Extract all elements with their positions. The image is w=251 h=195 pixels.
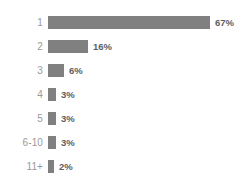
category-label: 4: [0, 88, 43, 101]
category-label: 2: [0, 40, 43, 53]
chart-row: 5 3%: [0, 112, 251, 125]
bar-area: 67%: [48, 16, 251, 29]
category-label: 3: [0, 64, 43, 77]
category-label: 5: [0, 112, 43, 125]
bar-area: 3%: [48, 112, 251, 125]
chart-row: 2 16%: [0, 40, 251, 53]
value-label: 2%: [59, 160, 73, 173]
bar-area: 16%: [48, 40, 251, 53]
bar-area: 6%: [48, 64, 251, 77]
bar-area: 3%: [48, 88, 251, 101]
value-label: 3%: [61, 88, 75, 101]
value-label: 3%: [61, 112, 75, 125]
chart-row: 3 6%: [0, 64, 251, 77]
bar: [48, 40, 88, 53]
chart-row: 1 67%: [0, 16, 251, 29]
bar: [48, 160, 54, 173]
category-label: 1: [0, 16, 43, 29]
horizontal-bar-chart: 1 67% 2 16% 3 6% 4 3% 5 3% 6-1: [0, 0, 251, 195]
value-label: 3%: [61, 136, 75, 149]
value-label: 16%: [93, 40, 112, 53]
bar: [48, 88, 56, 101]
chart-row: 4 3%: [0, 88, 251, 101]
category-label: 11+: [0, 160, 43, 173]
bar-area: 2%: [48, 160, 251, 173]
bar: [48, 112, 56, 125]
category-label: 6-10: [0, 136, 43, 149]
bar: [48, 16, 210, 29]
value-label: 6%: [69, 64, 83, 77]
value-label: 67%: [215, 16, 234, 29]
chart-row: 11+ 2%: [0, 160, 251, 173]
chart-row: 6-10 3%: [0, 136, 251, 149]
bar: [48, 64, 64, 77]
bar: [48, 136, 56, 149]
bar-area: 3%: [48, 136, 251, 149]
